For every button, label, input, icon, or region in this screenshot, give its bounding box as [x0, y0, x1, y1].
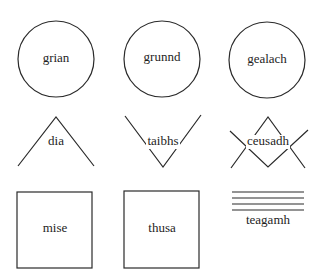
- symbol-label: thusa: [148, 220, 176, 235]
- symbol-label: gealach: [247, 51, 287, 66]
- symbol-gealach: gealach: [229, 22, 305, 98]
- symbol-mise: mise: [17, 192, 92, 268]
- symbol-label: mise: [43, 220, 68, 235]
- symbol-diagram: grian grunnd gealach dia taibhs ceusadh …: [0, 0, 321, 280]
- symbol-label: grunnd: [144, 49, 181, 64]
- symbol-taibhs: taibhs: [125, 115, 201, 167]
- symbol-label: taibhs: [147, 133, 178, 148]
- symbol-dia: dia: [18, 117, 94, 166]
- symbol-grunnd: grunnd: [124, 21, 200, 97]
- symbol-teagamh: teagamh: [232, 192, 304, 227]
- symbol-thusa: thusa: [124, 191, 199, 268]
- symbol-label: dia: [48, 133, 64, 148]
- symbol-grian: grian: [18, 21, 94, 97]
- symbol-label: teagamh: [246, 212, 291, 227]
- symbol-label: ceusadh: [247, 133, 289, 148]
- symbol-label: grian: [43, 50, 70, 65]
- symbol-ceusadh: ceusadh: [230, 117, 308, 168]
